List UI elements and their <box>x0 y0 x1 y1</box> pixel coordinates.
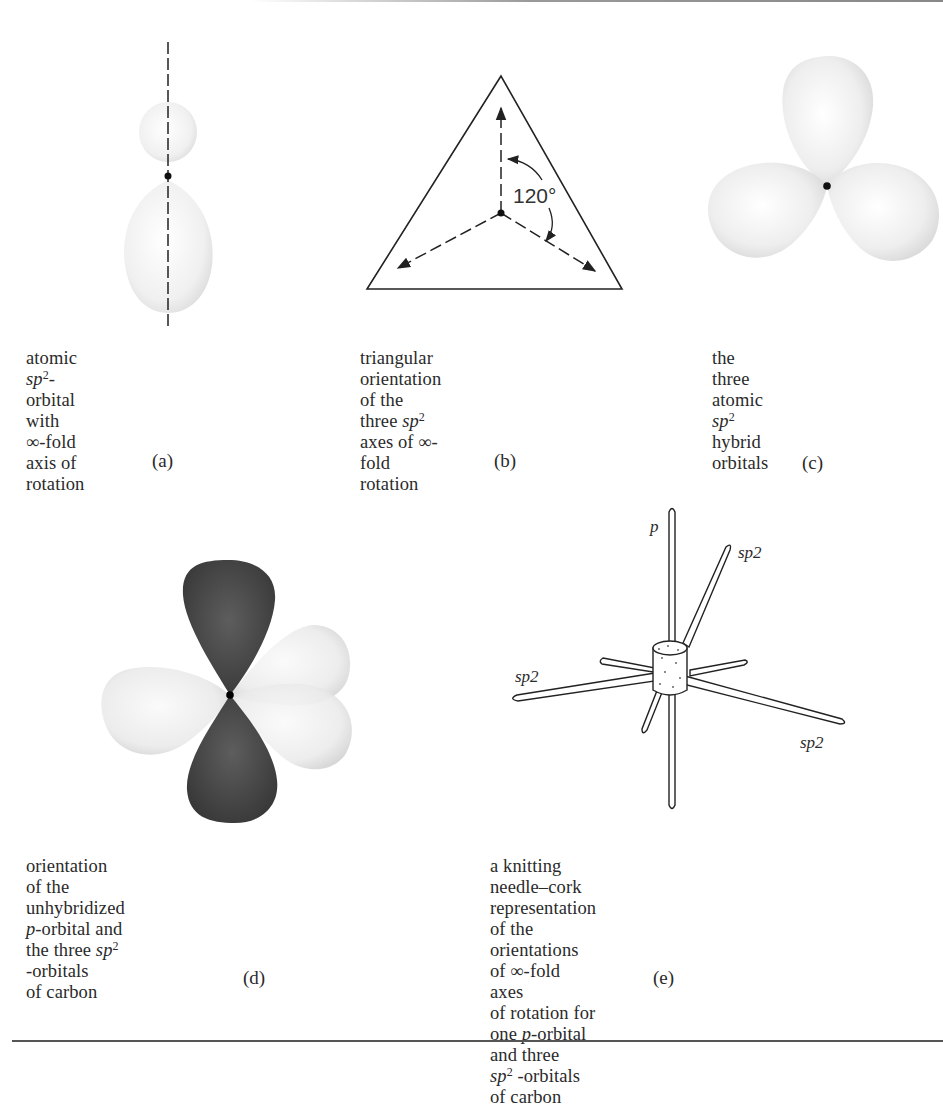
bottom-rule <box>12 1040 943 1042</box>
label-e: (e) <box>653 967 674 989</box>
label-c: (c) <box>802 452 823 474</box>
caption-d: orientation of the unhybridized p-orbita… <box>26 856 125 1003</box>
three-sp2-orbitals-figure <box>690 40 943 300</box>
needle-label-sp2-upper: sp2 <box>738 543 762 562</box>
top-rule <box>250 0 943 2</box>
label-a: (a) <box>152 450 173 472</box>
label-d: (d) <box>243 967 265 989</box>
caption-b: triangular orientation of the three sp2 … <box>360 348 441 495</box>
sp2-orbital-axis-figure <box>100 30 250 330</box>
needle-label-sp2-left: sp2 <box>515 667 539 686</box>
triangle-orientation-figure: 120° <box>350 40 625 300</box>
p-and-sp2-orbitals-figure <box>80 500 380 840</box>
angle-label: 120° <box>513 184 556 207</box>
caption-e: a knitting needle–cork representation of… <box>490 856 596 1107</box>
caption-c: the three atomic sp2 hybrid orbitals <box>712 348 768 474</box>
needle-label-p: p <box>649 517 659 536</box>
caption-a: atomic sp2-orbital with ∞-fold axis of r… <box>26 348 84 495</box>
label-b: (b) <box>494 450 516 472</box>
needle-label-sp2-lower: sp2 <box>800 733 824 752</box>
knitting-needle-cork-figure: p sp2 sp2 sp2 <box>490 500 860 820</box>
nucleus-dot <box>165 173 172 180</box>
